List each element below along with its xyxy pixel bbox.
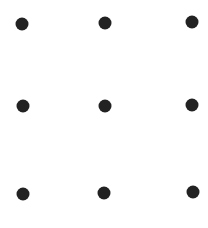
dot-r2-c0 <box>17 188 30 201</box>
dot-r2-c2 <box>187 186 200 199</box>
dot-r0-c1 <box>99 17 112 30</box>
dot-r0-c0 <box>16 18 29 31</box>
dot-r1-c0 <box>17 100 30 113</box>
dot-grid-diagram <box>0 0 208 228</box>
dot-r2-c1 <box>98 187 111 200</box>
dot-r0-c2 <box>186 16 199 29</box>
dot-r1-c2 <box>186 99 199 112</box>
dot-r1-c1 <box>99 100 112 113</box>
